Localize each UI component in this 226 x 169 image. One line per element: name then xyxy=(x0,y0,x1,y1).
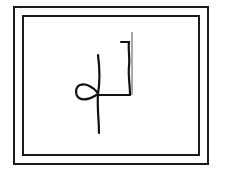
drawing-canvas xyxy=(0,0,226,169)
loop-stroke xyxy=(76,84,98,99)
right-vertical-stroke xyxy=(129,42,130,95)
handwritten-glyph-icon xyxy=(0,0,226,169)
